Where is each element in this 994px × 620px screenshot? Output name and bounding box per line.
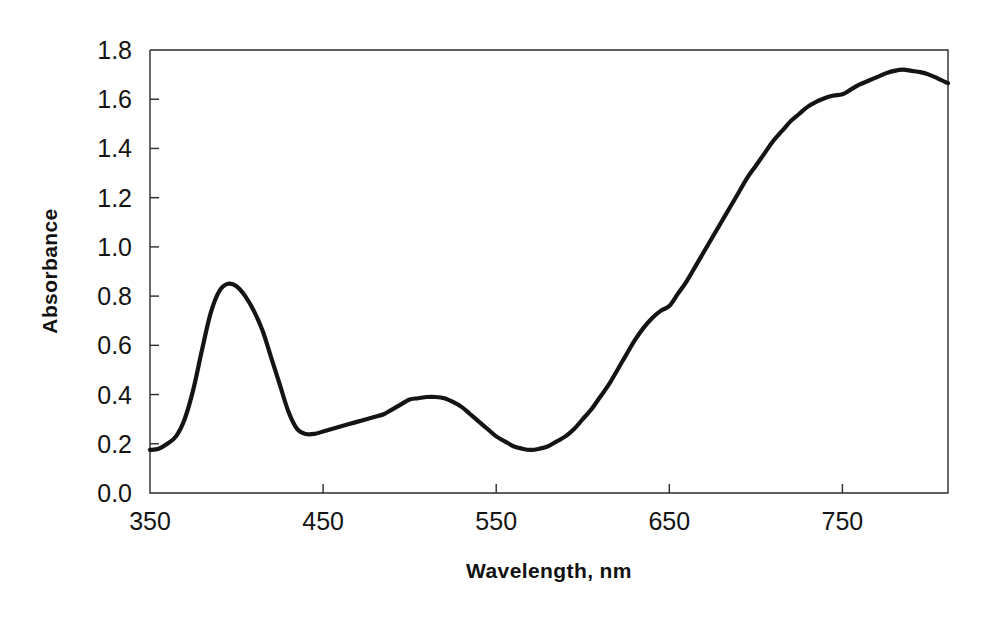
absorbance-curve bbox=[150, 70, 948, 450]
y-axis-tick-marks bbox=[150, 99, 159, 444]
x-tick-label: 350 bbox=[129, 507, 171, 535]
y-tick-label: 1.8 bbox=[97, 36, 132, 64]
x-tick-label: 450 bbox=[302, 507, 344, 535]
y-tick-label: 1.2 bbox=[97, 184, 132, 212]
y-tick-label: 1.4 bbox=[97, 134, 132, 162]
x-tick-label: 650 bbox=[648, 507, 690, 535]
y-tick-label: 0.6 bbox=[97, 331, 132, 359]
y-tick-label: 0.0 bbox=[97, 479, 132, 507]
y-axis-tick-labels: 0.00.20.40.60.81.01.21.41.61.8 bbox=[97, 36, 132, 507]
x-axis-tick-labels: 350450550650750 bbox=[129, 507, 863, 535]
x-tick-label: 550 bbox=[475, 507, 517, 535]
plot-canvas: 0.00.20.40.60.81.01.21.41.61.8 350450550… bbox=[0, 0, 994, 620]
absorbance-spectrum-figure: 0.00.20.40.60.81.01.21.41.61.8 350450550… bbox=[0, 0, 994, 620]
x-tick-label: 750 bbox=[822, 507, 864, 535]
y-tick-label: 1.6 bbox=[97, 85, 132, 113]
y-tick-label: 0.2 bbox=[97, 430, 132, 458]
plot-frame bbox=[150, 50, 948, 493]
y-tick-label: 0.4 bbox=[97, 381, 132, 409]
y-axis-title: Absorbance bbox=[38, 208, 61, 333]
x-axis-tick-marks bbox=[323, 484, 842, 493]
y-tick-label: 1.0 bbox=[97, 233, 132, 261]
y-tick-label: 0.8 bbox=[97, 282, 132, 310]
x-axis-title: Wavelength, nm bbox=[466, 559, 632, 582]
